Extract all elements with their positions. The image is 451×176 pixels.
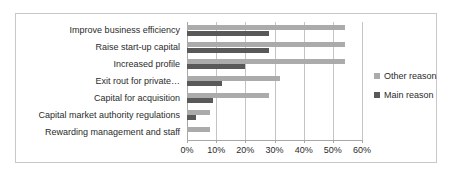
x-axis-tick	[333, 140, 334, 143]
category-band	[187, 106, 362, 123]
x-axis-tick	[304, 140, 305, 143]
bar-other-reason	[187, 42, 345, 47]
legend-swatch-icon	[374, 73, 380, 79]
bar-main-reason	[187, 64, 245, 69]
x-axis-tick	[216, 140, 217, 143]
category-band	[187, 22, 362, 39]
bar-main-reason	[187, 115, 196, 120]
x-axis-tick	[275, 140, 276, 143]
plot-area	[187, 22, 362, 140]
bar-main-reason	[187, 98, 213, 103]
legend-entry[interactable]: Other reason	[374, 71, 437, 81]
category-band	[187, 39, 362, 56]
category-band	[187, 56, 362, 73]
x-axis-tick	[245, 140, 246, 143]
legend-entry[interactable]: Main reason	[374, 90, 437, 100]
x-axis-tick	[187, 140, 188, 143]
x-axis-tick-label: 30%	[261, 145, 289, 156]
chart-legend: Other reasonMain reason	[374, 71, 437, 109]
y-axis-label: Raise start-up capital	[95, 42, 180, 52]
y-axis-label: Increased profile	[113, 59, 180, 69]
bar-main-reason	[187, 81, 222, 86]
bar-other-reason	[187, 59, 345, 64]
legend-label: Other reason	[384, 71, 437, 81]
x-axis-tick-label: 20%	[231, 145, 259, 156]
legend-swatch-icon	[374, 92, 380, 98]
bars-layer	[187, 22, 362, 140]
legend-label: Main reason	[384, 90, 434, 100]
x-axis-tick-label: 0%	[173, 145, 201, 156]
bar-other-reason	[187, 93, 269, 98]
bar-main-reason	[187, 31, 269, 36]
bar-other-reason	[187, 76, 280, 81]
bar-other-reason	[187, 127, 210, 132]
y-axis-label: Capital market authority regulations	[38, 110, 180, 120]
x-axis-tick	[362, 140, 363, 143]
category-band	[187, 73, 362, 90]
y-axis-label: Rewarding management and staff	[45, 127, 180, 137]
y-axis-label: Capital for acquisition	[94, 93, 180, 103]
y-axis-label: Exit rout for private…	[95, 76, 180, 86]
bar-other-reason	[187, 110, 210, 115]
category-band	[187, 123, 362, 140]
x-axis-tick-label: 50%	[319, 145, 347, 156]
bar-other-reason	[187, 25, 345, 30]
bar-main-reason	[187, 48, 269, 53]
y-axis-label: Improve business efficiency	[70, 25, 180, 35]
x-axis-tick-label: 40%	[290, 145, 318, 156]
x-axis-tick-label: 60%	[348, 145, 376, 156]
category-band	[187, 89, 362, 106]
y-axis-category-labels: Improve business efficiencyRaise start-u…	[16, 22, 184, 140]
x-axis-tick-label: 10%	[202, 145, 230, 156]
chart-figure: Improve business efficiencyRaise start-u…	[15, 13, 437, 163]
gridline	[362, 22, 363, 140]
